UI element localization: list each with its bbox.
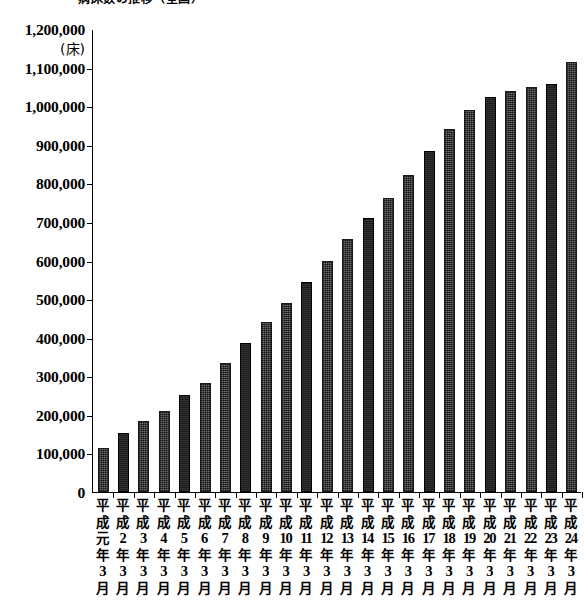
- plot-area: [92, 30, 581, 493]
- bar: [485, 97, 496, 492]
- x-axis-tick-label: 平成11年3月: [296, 497, 316, 597]
- y-axis-tick-label: 100,000: [0, 445, 85, 463]
- x-axis-tick-label: 平成19年3月: [459, 497, 479, 597]
- x-axis-tick-label: 平成5年3月: [174, 497, 194, 597]
- x-axis-tick-label: 平成10年3月: [276, 497, 296, 597]
- y-axis-tick-label: 400,000: [0, 330, 85, 348]
- bar: [505, 91, 516, 492]
- y-axis-tick: [87, 339, 93, 340]
- y-axis-tick: [87, 262, 93, 263]
- y-axis-tick: [87, 223, 93, 224]
- x-axis-tick-label: 平成7年3月: [214, 497, 234, 597]
- x-axis-tick-label: 平成4年3月: [153, 497, 173, 597]
- bar: [424, 151, 435, 492]
- y-axis-tick: [87, 69, 93, 70]
- chart-title-clipped: 病床数の推移（全国）: [78, 0, 338, 7]
- bar: [200, 383, 211, 492]
- y-axis-tick: [87, 416, 93, 417]
- x-axis-tick-label: 平成9年3月: [255, 497, 275, 597]
- x-axis-tick-label: 平成2年3月: [113, 497, 133, 597]
- x-axis-tick-label: 平成22年3月: [520, 497, 540, 597]
- x-axis-tick-label: 平成18年3月: [439, 497, 459, 597]
- y-axis-tick-label: 1,200,000: [0, 21, 85, 39]
- bar: [220, 363, 231, 492]
- x-axis-labels: 平成元年3月平成2年3月平成3年3月平成4年3月平成5年3月平成6年3月平成7年…: [92, 497, 581, 604]
- bar: [159, 411, 170, 492]
- x-axis-tick-label: 平成14年3月: [357, 497, 377, 597]
- y-axis-tick-label: 1,000,000: [0, 98, 85, 116]
- y-axis-tick-label: 600,000: [0, 253, 85, 271]
- bar: [118, 433, 129, 492]
- y-axis-tick-label: 200,000: [0, 407, 85, 425]
- bar: [526, 87, 537, 492]
- bar: [98, 448, 109, 492]
- bar: [240, 343, 251, 492]
- x-axis-tick-label: 平成16年3月: [398, 497, 418, 597]
- x-axis-tick-label: 平成3年3月: [133, 497, 153, 597]
- plot-inner: [93, 30, 581, 492]
- y-axis-tick: [87, 146, 93, 147]
- y-axis-tick-label: 300,000: [0, 368, 85, 386]
- bar: [301, 282, 312, 492]
- bar: [464, 110, 475, 492]
- x-axis-tick-label: 平成24年3月: [561, 497, 581, 597]
- x-axis-tick-label: 平成8年3月: [235, 497, 255, 597]
- y-axis-tick-label: 800,000: [0, 175, 85, 193]
- y-axis-tick-label: 1,100,000: [0, 60, 85, 78]
- x-axis-tick-label: 平成15年3月: [377, 497, 397, 597]
- y-axis-tick: [87, 377, 93, 378]
- bar: [546, 84, 557, 492]
- x-axis-tick: [582, 492, 583, 498]
- bar: [322, 261, 333, 492]
- x-axis-tick-label: 平成17年3月: [418, 497, 438, 597]
- bar: [383, 198, 394, 492]
- bar: [566, 62, 577, 492]
- y-axis-tick-label: 0: [0, 484, 85, 502]
- bar: [342, 239, 353, 492]
- y-axis-tick-label: 500,000: [0, 291, 85, 309]
- y-axis-tick: [87, 300, 93, 301]
- y-axis-tick: [87, 107, 93, 108]
- y-axis-tick: [87, 454, 93, 455]
- chart-title-text: 病床数の推移（全国）: [78, 0, 338, 5]
- y-axis-tick: [87, 184, 93, 185]
- bar: [363, 218, 374, 492]
- y-axis-unit-label: (床): [0, 38, 85, 58]
- x-axis-tick-label: 平成元年3月: [92, 497, 112, 597]
- x-axis-tick-label: 平成13年3月: [337, 497, 357, 597]
- y-axis-tick-label: 700,000: [0, 214, 85, 232]
- bar: [444, 129, 455, 492]
- bar: [261, 322, 272, 492]
- x-axis-tick-label: 平成6年3月: [194, 497, 214, 597]
- bar: [281, 303, 292, 492]
- x-axis-tick-label: 平成21年3月: [500, 497, 520, 597]
- bar: [179, 395, 190, 492]
- bar: [138, 421, 149, 492]
- bar: [403, 175, 414, 492]
- x-axis-tick-label: 平成20年3月: [479, 497, 499, 597]
- x-axis-tick-label: 平成23年3月: [540, 497, 560, 597]
- bar-chart: 病床数の推移（全国） 1,200,0001,100,0001,000,00090…: [0, 0, 584, 604]
- x-axis-tick-label: 平成12年3月: [316, 497, 336, 597]
- y-axis-tick-label: 900,000: [0, 137, 85, 155]
